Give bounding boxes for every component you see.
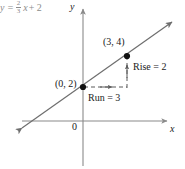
point-label-second-point: (3, 4)	[103, 37, 125, 47]
run-annotation-label: Run = 3	[88, 93, 120, 103]
slope-line-diagram: y x 0 (0, 2) (3, 4) Rise = 2 Run = 3 y =…	[0, 0, 185, 169]
point-label-y-intercept: (0, 2)	[55, 79, 77, 89]
point-marker-second-point	[124, 53, 130, 59]
x-axis-label: x	[170, 124, 174, 134]
origin-label: 0	[72, 122, 77, 132]
plotted-line	[22, 22, 172, 128]
diagram-canvas	[0, 0, 185, 169]
y-axis-label: y	[70, 2, 74, 12]
point-marker-y-intercept	[80, 84, 86, 90]
rise-annotation-label: Rise = 2	[133, 62, 166, 72]
